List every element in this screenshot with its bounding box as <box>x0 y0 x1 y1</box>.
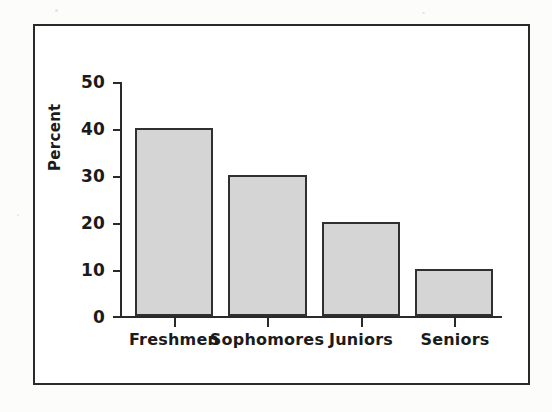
figure-frame: 50 40 30 20 10 0 Percent <box>33 24 530 385</box>
scan-speck <box>55 9 58 12</box>
scan-speck <box>422 12 425 14</box>
bar-seniors[interactable] <box>415 269 493 316</box>
x-axis-tick-sophomores <box>267 318 269 327</box>
y-axis-tick-0 <box>113 316 122 318</box>
x-axis-line <box>120 316 502 318</box>
scanned-page-background: 50 40 30 20 10 0 Percent <box>0 0 552 412</box>
bar-juniors[interactable] <box>322 222 400 316</box>
x-axis-tick-juniors <box>361 318 363 327</box>
scan-speck <box>17 214 19 216</box>
bars-layer <box>35 26 528 316</box>
bar-chart-plot-area: 50 40 30 20 10 0 Percent <box>35 26 528 383</box>
bar-sophomores[interactable] <box>228 175 307 316</box>
x-axis-tick-seniors <box>454 318 456 327</box>
x-axis-tick-freshmen <box>174 318 176 327</box>
bar-freshmen[interactable] <box>135 128 213 316</box>
x-axis-label-seniors: Seniors <box>399 330 511 349</box>
